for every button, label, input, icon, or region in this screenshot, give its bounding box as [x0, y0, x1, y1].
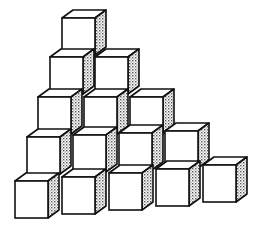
cube-front-face — [62, 177, 95, 214]
cube-side-face — [83, 49, 94, 94]
cube — [95, 49, 139, 94]
cube-side-face — [128, 49, 139, 94]
cube-side-face — [95, 10, 106, 55]
cube-side-face — [189, 161, 200, 206]
cube-front-face — [73, 135, 106, 172]
cube-side-face — [152, 125, 163, 170]
cube-side-face — [71, 89, 82, 134]
cube — [119, 125, 163, 170]
cube — [203, 157, 247, 202]
cube-side-face — [106, 127, 117, 172]
cube-front-face — [15, 181, 48, 218]
cube-pyramid-figure — [0, 0, 266, 231]
cube — [156, 161, 200, 206]
cube-side-face — [142, 165, 153, 210]
cube-front-face — [156, 169, 189, 206]
cube — [73, 127, 117, 172]
cube — [62, 169, 106, 214]
cube — [109, 165, 153, 210]
cube-side-face — [236, 157, 247, 202]
cube-side-face — [48, 173, 59, 218]
cube-side-face — [95, 169, 106, 214]
cube — [38, 89, 82, 134]
cube-front-face — [27, 137, 60, 174]
cube-pyramid-svg — [0, 0, 266, 231]
cube-side-face — [60, 129, 71, 174]
cube-front-face — [203, 165, 236, 202]
cube — [50, 49, 94, 94]
cube — [15, 173, 59, 218]
cube-front-face — [109, 173, 142, 210]
cube — [27, 129, 71, 174]
